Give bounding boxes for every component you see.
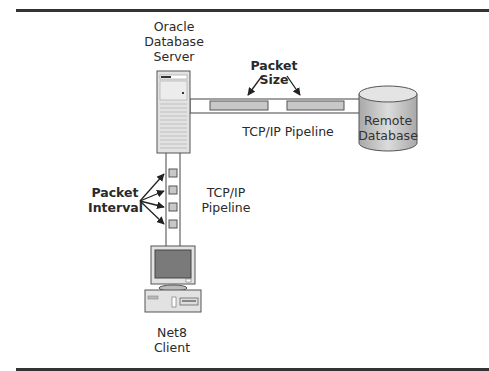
server-label: Oracle Database Server <box>140 19 208 64</box>
packet <box>210 101 268 110</box>
client-computer-icon <box>145 246 201 312</box>
packet <box>169 220 177 228</box>
horizontal-pipeline-label: TCP/IP Pipeline <box>228 124 348 139</box>
vertical-pipeline-label: TCP/IP Pipeline <box>196 185 256 215</box>
vertical-pipeline <box>166 152 180 247</box>
remote-db-label: Remote Database <box>356 113 420 143</box>
server-icon <box>157 71 190 153</box>
horizontal-pipeline <box>190 99 360 113</box>
packet-interval-arrows <box>140 174 164 224</box>
packet-interval-label: Packet Interval <box>88 185 142 215</box>
packet <box>169 186 177 194</box>
packet <box>169 169 177 177</box>
client-label: Net8 Client <box>142 325 202 355</box>
packet <box>287 101 344 110</box>
packet <box>169 203 177 211</box>
packet-size-label: Packet Size <box>244 59 304 87</box>
